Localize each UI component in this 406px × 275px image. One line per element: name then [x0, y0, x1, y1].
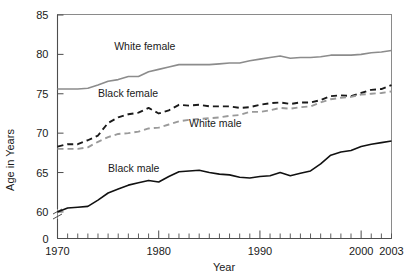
chart-container: 6065707580850 19701980199020002003 White…: [0, 0, 406, 275]
y-tick-label-zero: 0: [42, 233, 48, 245]
y-tick-label: 75: [36, 88, 48, 100]
x-tick-label: 1980: [146, 245, 170, 257]
x-tick-label: 2000: [349, 245, 373, 257]
x-tick-label: 1990: [248, 245, 272, 257]
series-line-white-female: [58, 50, 392, 89]
series-label-white-female: White female: [114, 40, 175, 52]
y-tick-label: 70: [36, 127, 48, 139]
series-inline-labels: White femaleBlack femaleWhite maleBlack …: [98, 40, 242, 174]
series-label-black-male: Black male: [108, 162, 160, 174]
series-lines: [58, 50, 392, 211]
x-axis: 19701980199020002003: [45, 231, 403, 257]
series-label-black-female: Black female: [98, 87, 158, 99]
y-axis-title: Age in Years: [4, 129, 16, 191]
y-tick-label: 65: [36, 167, 48, 179]
y-tick-label: 60: [36, 206, 48, 218]
x-tick-label: 2003: [379, 245, 403, 257]
y-tick-label: 80: [36, 48, 48, 60]
life-expectancy-line-chart: 6065707580850 19701980199020002003 White…: [0, 0, 406, 275]
series-label-white-male: White male: [189, 117, 242, 129]
x-axis-title: Year: [213, 261, 236, 273]
y-tick-label: 85: [36, 9, 48, 21]
series-line-black-male: [58, 141, 392, 212]
y-axis: 6065707580850: [36, 9, 63, 245]
x-tick-label: 1970: [45, 245, 69, 257]
